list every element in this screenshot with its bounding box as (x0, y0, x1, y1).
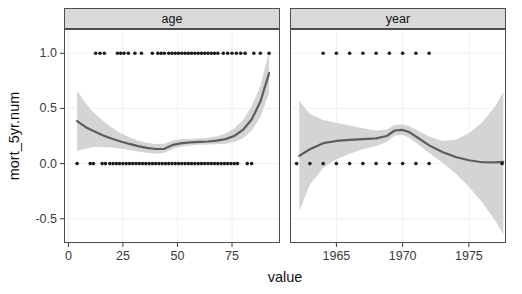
ytick-label: 0.0 (40, 157, 57, 171)
point-top (414, 51, 418, 55)
point-bottom (388, 162, 392, 166)
point-top (239, 51, 243, 55)
point-bottom (219, 162, 223, 166)
point-top (151, 51, 155, 55)
xtick-label: 25 (116, 249, 130, 263)
point-top (94, 51, 98, 55)
point-bottom (187, 162, 191, 166)
xtick-label: 0 (65, 249, 72, 263)
point-top (127, 51, 131, 55)
point-bottom (177, 162, 181, 166)
point-bottom (173, 162, 177, 166)
xtick-label: 50 (171, 249, 185, 263)
point-bottom (111, 162, 115, 166)
xtick-label: 1965 (322, 249, 350, 263)
point-bottom (144, 162, 148, 166)
point-top (209, 51, 213, 55)
point-bottom (216, 162, 220, 166)
point-bottom (348, 162, 352, 166)
point-bottom (308, 162, 312, 166)
point-bottom (200, 162, 204, 166)
point-bottom (92, 162, 96, 166)
point-top (173, 51, 177, 55)
point-bottom (229, 162, 233, 166)
ytick-label: -0.5 (35, 212, 57, 226)
point-top (374, 51, 378, 55)
point-bottom (374, 162, 378, 166)
point-bottom (250, 162, 254, 166)
point-top (267, 51, 271, 55)
point-bottom (121, 162, 125, 166)
point-top (159, 51, 163, 55)
point-bottom (170, 162, 174, 166)
point-bottom (232, 162, 236, 166)
point-top (206, 51, 210, 55)
ytick-label: 1.0 (40, 46, 57, 60)
point-top (230, 51, 234, 55)
x-axis-title: value (268, 269, 303, 285)
point-bottom (245, 162, 249, 166)
point-bottom (154, 162, 158, 166)
point-top (221, 51, 225, 55)
point-bottom (167, 162, 171, 166)
point-top (203, 51, 207, 55)
point-top (193, 51, 197, 55)
point-top (156, 51, 160, 55)
point-top (119, 51, 123, 55)
point-top (180, 51, 184, 55)
point-top (170, 51, 174, 55)
point-bottom (427, 162, 431, 166)
point-top (196, 51, 200, 55)
point-bottom (236, 162, 240, 166)
point-top (361, 51, 365, 55)
point-top (243, 51, 247, 55)
point-top (103, 51, 107, 55)
point-bottom (147, 162, 151, 166)
point-bottom (108, 162, 112, 166)
point-top (348, 51, 352, 55)
point-bottom (500, 162, 504, 166)
xtick-label: 1970 (389, 249, 417, 263)
point-top (133, 51, 137, 55)
facet-plot: age0255075-0.50.00.51.0year196519701975m… (0, 0, 522, 294)
strip-label-year: year (290, 12, 506, 26)
point-bottom (134, 162, 138, 166)
point-bottom (104, 162, 108, 166)
point-top (335, 51, 339, 55)
point-top (200, 51, 204, 55)
point-bottom (401, 162, 405, 166)
point-top (216, 51, 220, 55)
point-bottom (414, 162, 418, 166)
point-bottom (183, 162, 187, 166)
point-bottom (124, 162, 128, 166)
strip-label-age: age (64, 12, 280, 26)
point-top (427, 51, 431, 55)
point-bottom (226, 162, 230, 166)
panel-year (290, 9, 506, 244)
point-top (321, 51, 325, 55)
point-bottom (295, 162, 299, 166)
point-bottom (100, 162, 104, 166)
point-top (401, 51, 405, 55)
point-bottom (190, 162, 194, 166)
point-bottom (209, 162, 213, 166)
point-bottom (193, 162, 197, 166)
point-bottom (131, 162, 135, 166)
point-bottom (118, 162, 122, 166)
y-axis-title: mort_5yr.num (6, 92, 22, 181)
point-bottom (196, 162, 200, 166)
point-bottom (160, 162, 164, 166)
point-bottom (151, 162, 155, 166)
point-top (213, 51, 217, 55)
panel-age (64, 9, 280, 244)
plot-canvas (0, 0, 522, 294)
point-bottom (137, 162, 141, 166)
point-bottom (203, 162, 207, 166)
point-bottom (164, 162, 168, 166)
point-top (183, 51, 187, 55)
point-top (163, 51, 167, 55)
point-top (235, 51, 239, 55)
point-top (252, 51, 256, 55)
point-bottom (180, 162, 184, 166)
point-top (226, 51, 230, 55)
